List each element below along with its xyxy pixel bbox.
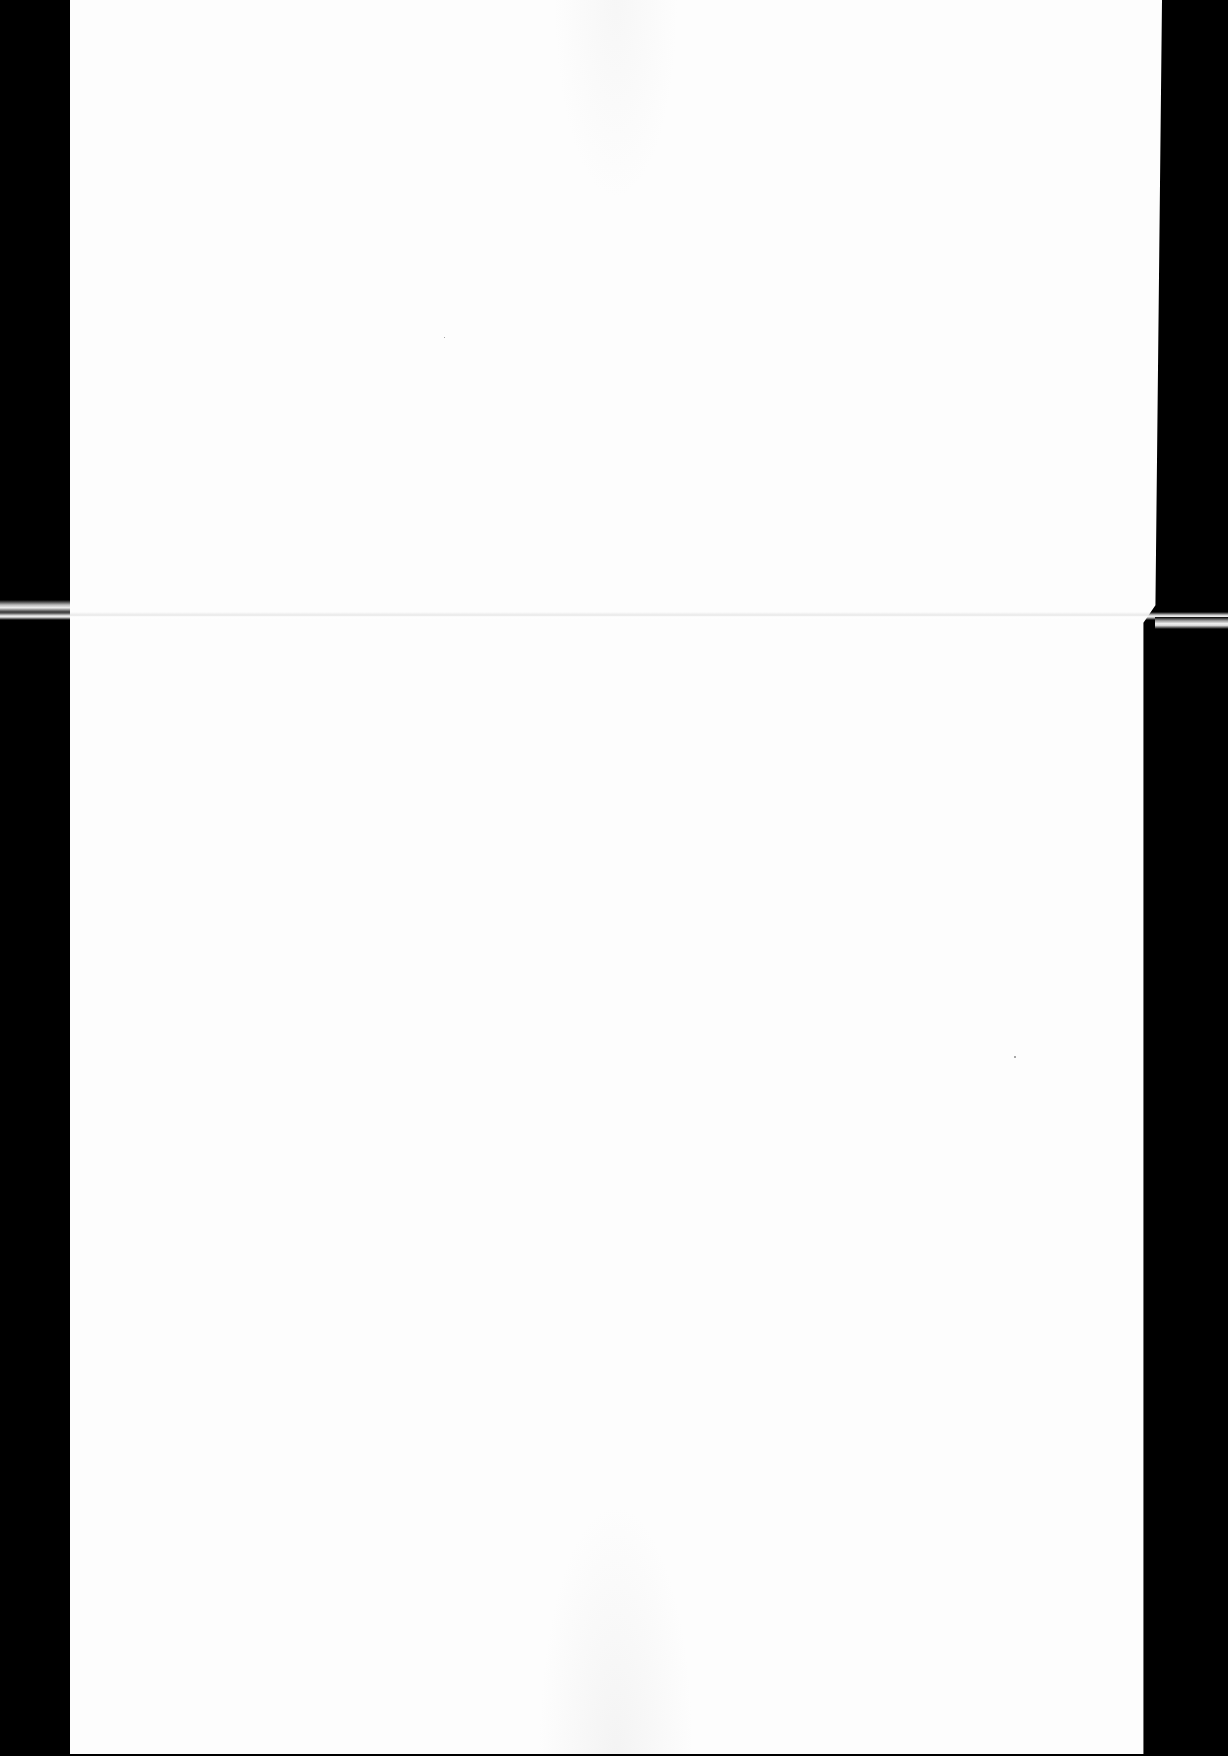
- paper-speck: [444, 337, 445, 338]
- fold-crease-right-edge: [1155, 617, 1228, 629]
- page-content: [70, 0, 1155, 1754]
- scanner-background: [0, 0, 1228, 1756]
- paper-speck: [1014, 1056, 1016, 1058]
